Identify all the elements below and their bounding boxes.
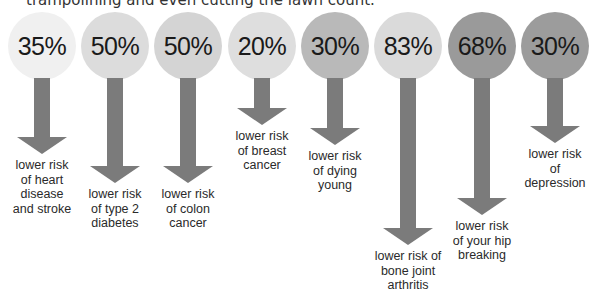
- percent-circle: 68%: [448, 12, 516, 80]
- stat-item: 50%lower riskof type 2diabetes: [78, 0, 152, 300]
- percent-circle: 20%: [228, 12, 296, 80]
- down-arrow-icon: [163, 166, 213, 183]
- benefit-label-line: breaking: [439, 248, 525, 263]
- benefit-label-line: lower risk: [439, 219, 525, 234]
- arrow-shaft: [180, 78, 196, 167]
- stat-item: 20%lower riskof breastcancer: [225, 0, 299, 300]
- benefit-label-line: lower risk: [219, 129, 305, 144]
- down-arrow-icon: [17, 137, 67, 154]
- benefit-label-line: of dying: [292, 164, 378, 179]
- benefit-label-line: of colon: [145, 202, 231, 217]
- down-arrow-icon: [530, 126, 580, 143]
- benefit-label-line: of your hip: [439, 234, 525, 249]
- down-arrow-icon: [90, 166, 140, 183]
- benefit-label-line: cancer: [145, 216, 231, 231]
- stat-item: 35%lower riskof heartdiseaseand stroke: [5, 0, 79, 300]
- down-arrow-icon: [237, 108, 287, 125]
- arrow-shaft: [327, 78, 343, 129]
- benefit-label: lower riskof coloncancer: [145, 187, 231, 231]
- benefit-label-line: bone joint: [365, 264, 451, 279]
- benefit-label-line: of heart: [0, 173, 85, 188]
- benefit-label-line: of: [512, 162, 598, 177]
- benefit-label-line: lower risk: [0, 158, 85, 173]
- percent-circle: 50%: [81, 12, 149, 80]
- percent-circle: 30%: [521, 12, 589, 80]
- benefit-label-line: lower risk: [145, 187, 231, 202]
- benefit-label-line: depression: [512, 176, 598, 191]
- percent-circle: 30%: [301, 12, 369, 80]
- benefit-label-line: young: [292, 178, 378, 193]
- stat-item: 30%lower riskofdepression: [518, 0, 592, 300]
- stat-item: 30%lower riskof dyingyoung: [298, 0, 372, 300]
- arrow-shaft: [34, 78, 50, 138]
- benefit-label: lower riskof your hipbreaking: [439, 219, 525, 263]
- arrow-shaft: [547, 78, 563, 127]
- benefit-label-line: arthritis: [365, 278, 451, 293]
- arrow-shaft: [474, 78, 490, 199]
- benefit-label: lower riskof dyingyoung: [292, 149, 378, 193]
- benefit-label: lower riskofdepression: [512, 147, 598, 191]
- percent-circle: 50%: [154, 12, 222, 80]
- stat-item: 83%lower risk ofbone jointarthritis: [371, 0, 445, 300]
- down-arrow-icon: [310, 128, 360, 145]
- down-arrow-icon: [457, 198, 507, 215]
- arrow-shaft: [254, 78, 270, 109]
- arrow-shaft: [107, 78, 123, 167]
- benefit-label-line: lower risk: [292, 149, 378, 164]
- down-arrow-icon: [383, 228, 433, 245]
- percent-circle: 35%: [8, 12, 76, 80]
- stat-item: 50%lower riskof coloncancer: [151, 0, 225, 300]
- benefit-label-line: lower risk: [512, 147, 598, 162]
- arrow-shaft: [400, 78, 416, 229]
- percent-circle: 83%: [374, 12, 442, 80]
- stat-item: 68%lower riskof your hipbreaking: [445, 0, 519, 300]
